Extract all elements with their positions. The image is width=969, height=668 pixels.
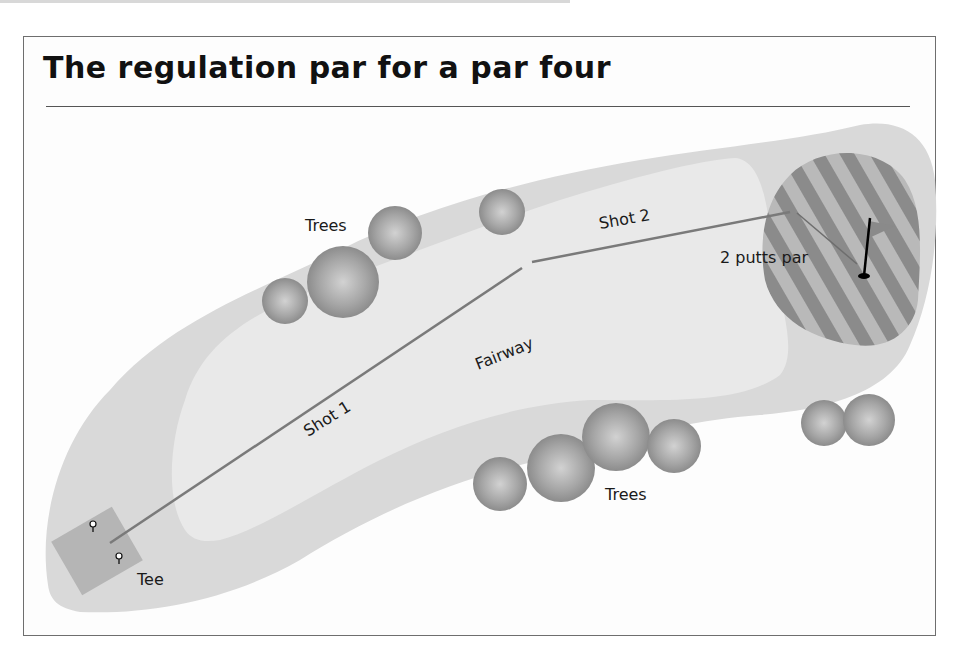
- trees-top-label: Trees: [304, 216, 347, 235]
- trees-bottom-label: Trees: [604, 485, 647, 504]
- tee-label: Tee: [136, 570, 164, 589]
- putts-label: 2 putts par: [720, 248, 808, 267]
- golf-hole-map: Trees Trees Fairway Shot 1 Shot 2 2 putt…: [0, 0, 969, 668]
